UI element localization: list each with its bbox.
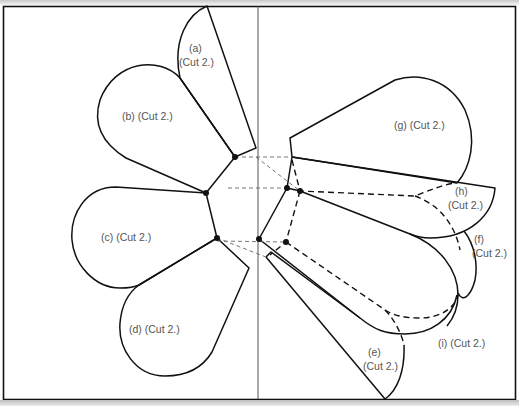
- piece-i-outline: [259, 188, 457, 334]
- pivot-dot: [284, 185, 290, 191]
- label-h-1: (h): [455, 185, 468, 197]
- label-g: (g) (Cut 2.): [394, 119, 445, 131]
- pivot-dot: [214, 235, 220, 241]
- pivot-dot: [203, 190, 209, 196]
- piece-h-outline: [287, 157, 495, 238]
- guide-line-c: [217, 241, 286, 242]
- pivot-points: [203, 154, 303, 245]
- label-c: (c) (Cut 2.): [101, 231, 151, 243]
- piece-d-outline: [120, 238, 249, 376]
- label-b: (b) (Cut 2.): [122, 110, 173, 122]
- piece-a-outline: [178, 6, 256, 157]
- dashed-outline-e: [385, 310, 404, 345]
- piece-e-outline: [266, 252, 404, 399]
- label-d: (d) (Cut 2.): [129, 323, 180, 335]
- label-f-1: (f): [474, 233, 484, 245]
- label-i: (i) (Cut 2.): [438, 337, 485, 349]
- pivot-dot: [297, 188, 303, 194]
- label-f-2: (Cut 2.): [472, 247, 507, 259]
- label-a-2: (Cut 2.): [179, 56, 214, 68]
- label-h-2: (Cut 2.): [448, 199, 483, 211]
- guide-line-e: [256, 157, 300, 191]
- scan-edge-bottom: [0, 400, 519, 406]
- pattern-diagram: (a) (Cut 2.) (b) (Cut 2.) (c) (Cut 2.) (…: [0, 0, 519, 406]
- label-e-2: (Cut 2.): [363, 360, 398, 372]
- pivot-dot: [256, 236, 262, 242]
- label-e-1: (e): [368, 346, 381, 358]
- piece-b-outline: [98, 65, 235, 193]
- pivot-dot: [283, 239, 289, 245]
- pivot-dot: [232, 154, 238, 160]
- label-a-1: (a): [189, 42, 202, 54]
